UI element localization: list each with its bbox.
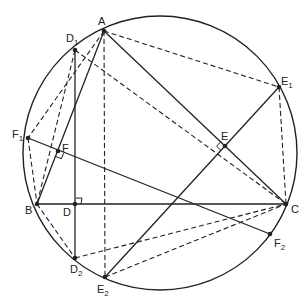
label-e: E (221, 130, 228, 142)
point-d1 (73, 48, 78, 53)
point-f2 (268, 232, 273, 237)
label-e1: E1 (281, 75, 293, 90)
point-b (35, 202, 40, 207)
geometry-diagram: ABCDEFD1D2E1E2F1F2 (0, 0, 307, 305)
label-d: D (63, 206, 71, 218)
point-f1 (26, 136, 31, 141)
dashed-segment-D1-C (75, 50, 286, 204)
diagram-canvas: ABCDEFD1D2E1E2F1F2 (0, 0, 307, 305)
dashed-segment-D2-C (75, 204, 286, 258)
label-c: C (291, 203, 299, 215)
point-e (223, 144, 228, 149)
point-d (73, 202, 78, 207)
dashed-segment-E2-C (105, 204, 286, 277)
label-e2: E2 (97, 283, 109, 298)
point-f (56, 149, 61, 154)
dashed-segment-A-E2 (104, 31, 105, 277)
dashed-segment-A-E1 (104, 31, 279, 87)
segment-A-B (37, 31, 104, 204)
dashed-segment-D1-B (37, 50, 75, 204)
point-d2 (73, 256, 78, 261)
right-angle-marker (217, 142, 221, 151)
label-f2: F2 (274, 237, 286, 252)
label-f1: F1 (12, 128, 24, 143)
point-e2 (103, 275, 108, 280)
point-c (284, 202, 289, 207)
label-a: A (98, 15, 106, 27)
dashed-segment-E1-C (279, 87, 286, 204)
point-a (102, 29, 107, 34)
label-b: B (25, 204, 32, 216)
label-d1: D1 (66, 32, 79, 47)
label-f: F (62, 142, 69, 154)
